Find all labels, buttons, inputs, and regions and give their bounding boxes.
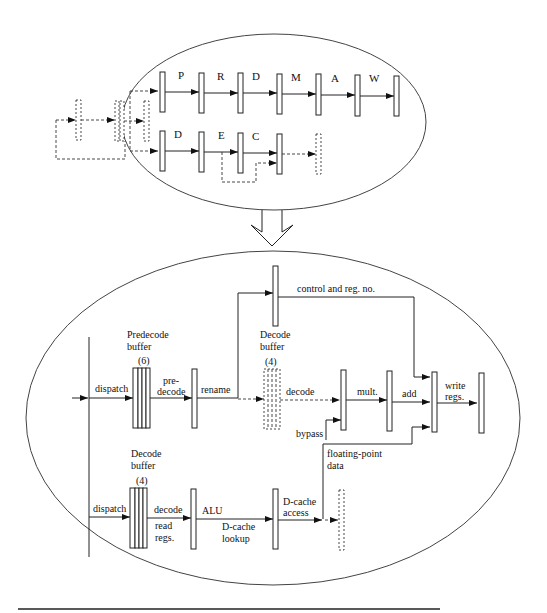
add-label: add	[402, 388, 416, 399]
write-regs-label: write	[445, 380, 466, 391]
alu-register	[191, 489, 196, 549]
stage-label: A	[331, 72, 339, 84]
stage-label: W	[369, 72, 380, 84]
stage-label: D	[252, 70, 260, 82]
predecode-register	[192, 369, 197, 428]
stage-label: P	[178, 69, 184, 81]
predecode-buffer	[133, 368, 150, 428]
fp-data-label: data	[327, 460, 344, 471]
read-regs-label: read	[155, 520, 172, 531]
control-reg-label: control and reg. no.	[297, 283, 375, 294]
top-feeder-dashed	[56, 91, 158, 159]
stage-label: C	[252, 130, 259, 142]
stage-label: M	[291, 71, 301, 83]
dcache-access-label: D-cache	[283, 496, 317, 507]
stage-label: E	[218, 129, 225, 141]
dcache-lookup-label: lookup	[222, 533, 250, 544]
predecode-label: decode	[157, 386, 186, 397]
fp-data-label: floating-point	[327, 448, 382, 459]
dispatch-label: dispatch	[93, 503, 126, 514]
rename-label: rename	[201, 384, 231, 395]
control-register	[273, 266, 278, 326]
dcache-access-label: access	[283, 507, 309, 518]
write-register	[432, 372, 437, 432]
alu-label: ALU	[202, 505, 223, 516]
top-ellipse	[122, 34, 426, 210]
mult-label: mult.	[357, 386, 378, 397]
read-regs-label: regs.	[155, 532, 174, 543]
dcache-register	[273, 489, 278, 549]
fp-decode-buffer-label: buffer	[260, 341, 285, 352]
int-decode-buffer-count: (4)	[136, 475, 148, 487]
add-register	[387, 371, 392, 431]
top-lower-row: D E C	[160, 128, 321, 182]
stage-label: R	[217, 70, 225, 82]
dcache-output-register	[339, 490, 344, 550]
decode-int-label: decode	[154, 504, 183, 515]
decode-fp-label: decode	[286, 386, 315, 397]
output-register	[479, 373, 484, 433]
fp-decode-buffer	[264, 369, 280, 429]
transform-arrow	[251, 210, 293, 246]
predecode-buffer-count: (6)	[138, 355, 150, 367]
top-upper-row: P R D M A W	[160, 69, 399, 116]
write-regs-label: regs.	[445, 391, 464, 402]
mult-register	[341, 370, 346, 430]
int-decode-buffer-label: Decode	[131, 448, 162, 459]
int-decode-buffer	[130, 488, 147, 548]
predecode-buffer-label: buffer	[127, 341, 152, 352]
dcache-lookup-label: D-cache	[222, 521, 256, 532]
fp-decode-buffer-count: (4)	[265, 356, 277, 368]
dispatch-label: dispatch	[95, 383, 128, 394]
predecode-buffer-label: Predecode	[127, 329, 169, 340]
fp-decode-buffer-label: Decode	[260, 329, 291, 340]
bypass-label: bypass	[296, 428, 323, 439]
stage-label: D	[174, 128, 182, 140]
pipeline-diagram: P R D M A W D E C Predecode buffer (6) d	[0, 0, 547, 613]
int-decode-buffer-label: buffer	[131, 460, 156, 471]
predecode-label: pre-	[163, 375, 179, 386]
